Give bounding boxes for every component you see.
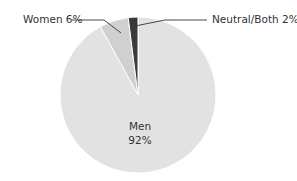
pie-chart <box>0 0 297 181</box>
neutral-label: Neutral/Both 2% <box>212 13 297 25</box>
pie-slices <box>60 17 216 173</box>
men-label: Men 92% <box>118 119 162 147</box>
women-label: Women 6% <box>23 13 83 25</box>
men-label-name: Men <box>118 119 162 133</box>
men-label-value: 92% <box>118 133 162 147</box>
